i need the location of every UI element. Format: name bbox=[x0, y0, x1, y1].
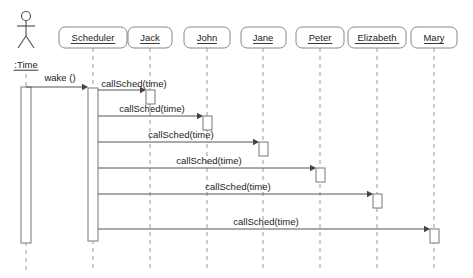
callsched-peter-message-target-activation bbox=[316, 168, 325, 182]
lifeline-label-jack: Jack bbox=[140, 32, 160, 43]
callsched-peter-message-label: callSched(time) bbox=[176, 155, 241, 166]
wake-message-label: wake () bbox=[43, 72, 75, 83]
stick-figure-actor-icon-head bbox=[22, 12, 31, 21]
callsched-jane-message-target-activation bbox=[259, 142, 268, 156]
callsched-jack-message-label: callSched(time) bbox=[101, 78, 166, 89]
callsched-jane-message-arrowhead bbox=[253, 139, 259, 145]
stick-figure-actor-icon-left-leg bbox=[18, 36, 26, 48]
stick-figure-actor-icon-right-leg bbox=[26, 36, 34, 48]
uml-sequence-diagram: :TimeSchedulerJackJohnJanePeterElizabeth… bbox=[0, 0, 473, 278]
callsched-jane-message-label: callSched(time) bbox=[148, 129, 213, 140]
callsched-jack-message-target-activation bbox=[146, 90, 155, 104]
callsched-mary-message-target-activation bbox=[430, 229, 439, 243]
callsched-john-message-target-activation bbox=[203, 116, 212, 130]
lifeline-label-peter: Peter bbox=[309, 32, 332, 43]
scheduler-activation-bar bbox=[88, 88, 98, 241]
callsched-john-message-label: callSched(time) bbox=[119, 103, 184, 114]
lifeline-label-scheduler: Scheduler bbox=[72, 32, 115, 43]
lifeline-label-mary: Mary bbox=[423, 32, 444, 43]
time-actor-activation-bar bbox=[21, 87, 31, 243]
callsched-mary-message-arrowhead bbox=[424, 226, 430, 232]
sequence-diagram-canvas: :TimeSchedulerJackJohnJanePeterElizabeth… bbox=[0, 0, 473, 278]
callsched-elizabeth-message-label: callSched(time) bbox=[205, 181, 270, 192]
callsched-elizabeth-message-arrowhead bbox=[367, 191, 373, 197]
time-actor-label: :Time bbox=[14, 59, 37, 70]
lifeline-label-elizabeth: Elizabeth bbox=[357, 32, 396, 43]
callsched-mary-message-label: callSched(time) bbox=[233, 216, 298, 227]
callsched-peter-message-arrowhead bbox=[310, 165, 316, 171]
callsched-elizabeth-message-target-activation bbox=[373, 194, 382, 208]
wake-message-arrowhead bbox=[82, 84, 88, 90]
callsched-john-message-arrowhead bbox=[197, 113, 203, 119]
lifeline-label-john: John bbox=[197, 32, 218, 43]
lifeline-label-jane: Jane bbox=[253, 32, 274, 43]
